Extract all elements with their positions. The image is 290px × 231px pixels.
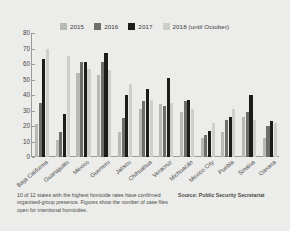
y-tick-label: 10 [10, 138, 30, 145]
bar-2018 [253, 120, 256, 157]
y-tick: 40 [7, 95, 35, 96]
bar-2015 [221, 132, 224, 157]
legend-swatch-2018 [163, 23, 170, 30]
chart-source: Source: Public Security Secretariat [178, 192, 282, 199]
bar-2018 [87, 69, 90, 157]
bar-2016 [204, 135, 207, 157]
bar-2015 [35, 124, 38, 157]
bar-2017 [187, 100, 190, 157]
legend-label-2016: 2016 [104, 23, 118, 30]
chart-figure: 2015 2016 2017 2018 (until October) 0102… [0, 0, 290, 231]
bar-2017 [270, 121, 273, 157]
bar-2015 [139, 109, 142, 157]
y-tick-label: 60 [10, 60, 30, 67]
bar-2016 [101, 62, 104, 157]
bar-2017 [167, 78, 170, 157]
bar-2016 [39, 103, 42, 157]
bar-2015 [159, 104, 162, 157]
bar-2018 [46, 49, 49, 158]
bar-2015 [242, 117, 245, 157]
y-tick-label: 0 [10, 153, 30, 160]
bar-group [97, 33, 111, 157]
y-tick: 60 [7, 64, 35, 65]
bar-2016 [225, 120, 228, 157]
bar-2016 [184, 101, 187, 157]
bar-2015 [56, 140, 59, 157]
bar-group [180, 33, 194, 157]
bar-group [201, 33, 215, 157]
bar-2016 [266, 126, 269, 157]
bar-2017 [84, 62, 87, 157]
legend-label-2017: 2017 [138, 23, 152, 30]
legend-item-2015: 2015 [60, 23, 84, 30]
bar-2015 [201, 138, 204, 157]
bar-2018 [274, 123, 277, 157]
bar-group [118, 33, 132, 157]
y-tick: 50 [7, 80, 35, 81]
bar-group [242, 33, 256, 157]
legend-item-2018: 2018 (until October) [163, 23, 230, 30]
bar-group [159, 33, 173, 157]
y-tick-label: 80 [10, 29, 30, 36]
bar-2017 [249, 95, 252, 157]
bar-group [56, 33, 70, 157]
x-axis-labels: Baja CaliforniaGuanajuatoMéxicoGuerreroJ… [31, 157, 279, 189]
bar-2017 [104, 53, 107, 157]
bar-2018 [67, 56, 70, 157]
legend-item-2016: 2016 [94, 23, 118, 30]
bar-2015 [118, 132, 121, 157]
y-tick: 30 [7, 111, 35, 112]
bar-group [263, 33, 277, 157]
bar-2017 [63, 114, 66, 157]
bar-2018 [150, 100, 153, 157]
legend-label-2015: 2015 [70, 23, 84, 30]
bar-group [139, 33, 153, 157]
legend-swatch-2015 [60, 23, 67, 30]
bar-2017 [208, 131, 211, 157]
bar-group [35, 33, 49, 157]
bar-2016 [142, 101, 145, 157]
chart-legend: 2015 2016 2017 2018 (until October) [60, 20, 282, 32]
y-tick-label: 20 [10, 122, 30, 129]
bar-2018 [108, 70, 111, 157]
y-tick-label: 70 [10, 45, 30, 52]
bar-2017 [146, 89, 149, 157]
legend-swatch-2016 [94, 23, 101, 30]
bar-2018 [129, 84, 132, 157]
bar-2017 [42, 59, 45, 157]
bar-2016 [122, 118, 125, 157]
legend-item-2017: 2017 [128, 23, 152, 30]
bar-2016 [80, 62, 83, 157]
bar-2018 [232, 109, 235, 157]
bar-2015 [180, 112, 183, 157]
y-tick: 20 [7, 126, 35, 127]
plot-area: 01020304050607080 [31, 33, 279, 157]
bar-2018 [170, 103, 173, 157]
chart-caption: 10 of 12 states with the highest homicid… [17, 192, 169, 214]
bar-2018 [212, 123, 215, 157]
y-tick-label: 50 [10, 76, 30, 83]
bar-2017 [229, 117, 232, 157]
y-tick: 70 [7, 49, 35, 50]
bar-2016 [246, 112, 249, 157]
bar-2017 [125, 95, 128, 157]
bar-2015 [263, 138, 266, 157]
bar-2015 [76, 73, 79, 157]
bar-2016 [59, 132, 62, 157]
y-tick-label: 40 [10, 91, 30, 98]
bar-group [76, 33, 90, 157]
bar-2015 [97, 75, 100, 157]
y-tick: 10 [7, 142, 35, 143]
bar-2016 [163, 106, 166, 157]
y-tick: 80 [7, 33, 35, 34]
bar-group [221, 33, 235, 157]
legend-swatch-2017 [128, 23, 135, 30]
y-tick-label: 30 [10, 107, 30, 114]
legend-label-2018: 2018 (until October) [173, 23, 230, 30]
bar-2018 [191, 109, 194, 157]
bar-groups [32, 33, 279, 157]
